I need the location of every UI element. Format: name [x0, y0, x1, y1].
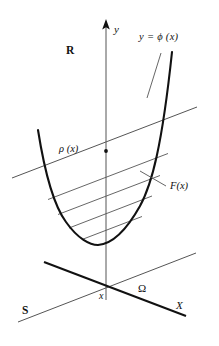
base-line-omega-domain [44, 262, 186, 316]
base-line-s-plane [18, 253, 196, 322]
chord-lines-group [48, 154, 168, 240]
label-space-r: R [66, 45, 74, 57]
figure-container: y R y = ϕ (x) ρ (x) F(x) Ω x X S [0, 0, 219, 346]
label-curve-equation: y = ϕ (x) [139, 32, 178, 43]
label-space-s: S [22, 305, 28, 317]
y-axis-group [102, 19, 110, 300]
label-axis-y: y [114, 24, 119, 35]
label-axis-x: X [176, 300, 183, 311]
label-f-of-x: F(x) [170, 181, 188, 192]
label-rho-of-x: ρ (x) [59, 144, 78, 155]
label-omega-domain: Ω [138, 283, 146, 294]
figure-canvas [0, 0, 219, 346]
curve-label-leader-line [147, 53, 161, 98]
label-point-x: x [99, 291, 103, 301]
chord-line-3 [69, 196, 152, 228]
rho-point-marker [104, 149, 108, 153]
